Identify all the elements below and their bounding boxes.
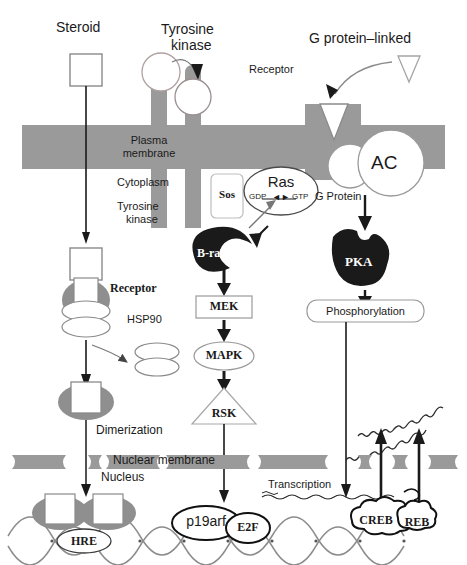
pka-protein: [307, 195, 424, 498]
label-hre: HRE: [57, 535, 111, 548]
label-plasma-membrane-line1: Plasma: [110, 134, 188, 146]
label-cytoplasm: Cytoplasm: [117, 176, 169, 188]
label-hsp90: HSP90: [127, 313, 162, 325]
label-ras-gtp: GTP: [292, 193, 308, 202]
label-nuclear-membrane: Nuclear membrane: [113, 454, 215, 467]
label-tk-cytoplasm-line1: Tyrosine: [117, 200, 159, 212]
label-ras-exchange: ◄►: [272, 192, 290, 202]
label-rsk: RSK: [196, 407, 252, 420]
label-e2f: E2F: [232, 521, 264, 534]
label-g-protein-linked: G protein–linked: [309, 31, 411, 47]
label-phosphorylation: Phosphorylation: [307, 305, 424, 317]
label-sos: Sos: [215, 188, 239, 200]
label-mapk: MAPK: [194, 349, 254, 362]
label-pka: PKA: [345, 255, 372, 270]
label-creb-1: CREB: [352, 514, 400, 527]
label-ras: Ras: [254, 174, 308, 191]
second-messenger-squiggles: [346, 407, 443, 460]
label-g-protein: G Protein: [315, 190, 361, 202]
label-p19arf: p19arf: [172, 514, 240, 530]
label-creb-2: REB: [400, 516, 434, 529]
label-receptor-top: Receptor: [249, 63, 294, 75]
label-steroid: Steroid: [56, 20, 100, 36]
transcription-mrna: [262, 492, 394, 500]
g-protein-ligand: [326, 56, 420, 99]
label-mek: MEK: [196, 300, 252, 313]
label-receptor-left: Receptor: [110, 282, 157, 295]
label-nucleus: Nucleus: [101, 471, 144, 484]
steroid-receptor-complex: [62, 248, 110, 337]
label-transcription: Transcription: [268, 478, 331, 490]
label-plasma-membrane-line2: membrane: [102, 147, 196, 159]
diagram-canvas: [0, 0, 467, 565]
label-ac: AC: [371, 152, 397, 173]
label-braf: B-raf: [197, 247, 224, 260]
label-tyrosine-kinase-line2: kinase: [171, 38, 211, 54]
label-tyrosine-kinase-line1: Tyrosine: [161, 22, 214, 38]
label-tk-cytoplasm-line2: kinase: [126, 213, 158, 225]
label-ras-gdp: GDP: [249, 193, 266, 202]
nuclear-membrane: [12, 455, 458, 469]
label-dimerization: Dimerization: [96, 424, 163, 437]
pathway-diagram: Steroid Tyrosine kinase G protein–linked…: [0, 0, 467, 565]
